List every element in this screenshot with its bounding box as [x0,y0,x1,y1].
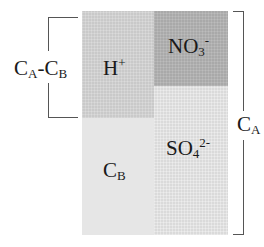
left-bracket-bottom-tick [48,117,78,118]
ca-label: CA [237,114,260,136]
left-bracket-top-tick [48,17,78,18]
sulfate-block [154,86,228,235]
nitrate-label: NO3- [168,34,209,58]
right-bracket-lower [243,140,244,235]
ca-minus-cb-label: CA-CB [14,58,67,80]
cb-label: CB [103,160,126,182]
right-bracket-bottom-tick [233,234,244,235]
right-bracket-upper [243,11,244,111]
h-plus-label: H+ [103,56,126,79]
left-bracket-lower [48,83,49,118]
left-bracket-upper [48,17,49,51]
sulfate-label: SO42- [166,136,210,160]
